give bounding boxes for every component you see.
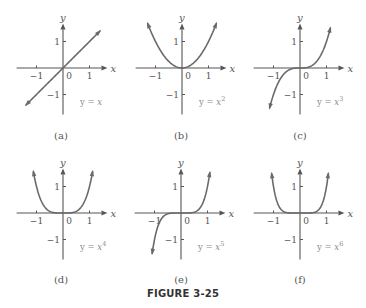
y-axis-label: y [296, 157, 303, 168]
tick-label: 0 [184, 216, 190, 226]
equation-label: y = x4 [79, 240, 106, 252]
tick-label: 1 [54, 182, 60, 192]
y-axis-arrow-icon [180, 24, 185, 30]
tick-label: 1 [291, 182, 297, 192]
power-function-plots: xy−1011−1y = xxy−1011−1y = x2xy−1011−1y … [0, 0, 366, 308]
y-axis-label: y [59, 12, 66, 23]
tick-label: 1 [205, 216, 211, 226]
tick-label: −1 [284, 235, 297, 245]
tick-label: −1 [267, 216, 280, 226]
curve-arrow-icon [90, 170, 94, 177]
y-axis-label: y [178, 12, 185, 23]
caption-f: (f) [294, 274, 306, 285]
tick-label: −1 [47, 90, 60, 100]
curve-arrow-icon [269, 103, 273, 110]
tick-label: −1 [166, 90, 179, 100]
x-axis-label: x [229, 63, 235, 74]
curve-arrow-icon [151, 249, 155, 256]
tick-label: 1 [206, 71, 212, 81]
tick-label: 0 [66, 71, 72, 81]
tick-label: −1 [30, 71, 43, 81]
x-axis-label: x [228, 208, 234, 219]
y-axis-label: y [177, 157, 184, 168]
curve-arrow-icon [147, 22, 151, 29]
equation-label: y = x [79, 97, 102, 107]
tick-label: −1 [165, 235, 178, 245]
tick-label: −1 [47, 235, 60, 245]
tick-label: 1 [87, 71, 93, 81]
equation-label: y = x2 [198, 95, 225, 107]
x-axis-label: x [347, 208, 353, 219]
figure-title: FIGURE 3-25 [147, 288, 219, 299]
x-axis-arrow-icon [220, 66, 226, 71]
tick-label: −1 [267, 71, 280, 81]
panel-f: xy−1011−1y = x6 [254, 157, 354, 260]
curve-arrow-icon [326, 172, 330, 179]
x-axis-arrow-icon [101, 211, 107, 216]
tick-label: −1 [149, 71, 162, 81]
x-axis-arrow-icon [219, 211, 225, 216]
tick-label: 1 [172, 182, 178, 192]
equation-label: y = x5 [197, 240, 224, 252]
y-axis-label: y [296, 12, 303, 23]
y-axis-label: y [59, 157, 66, 168]
curve-arrow-icon [213, 22, 217, 29]
equation-label: y = x3 [316, 95, 343, 107]
panel-a: xy−1011−1y = x [17, 12, 117, 115]
figure-3-25: xy−1011−1y = xxy−1011−1y = x2xy−1011−1y … [0, 0, 366, 308]
tick-label: 0 [303, 71, 309, 81]
x-axis-arrow-icon [338, 66, 344, 71]
curve-arrow-icon [207, 171, 211, 178]
panel-e: xy−1011−1y = x5 [135, 157, 235, 260]
y-axis-arrow-icon [179, 169, 184, 175]
x-axis-label: x [110, 208, 116, 219]
tick-label: 1 [87, 216, 93, 226]
panel-c: xy−1011−1y = x3 [254, 12, 354, 115]
panel-b: xy−1011−1y = x2 [136, 12, 236, 115]
equation-label: y = x6 [316, 240, 343, 252]
caption-a: (a) [54, 130, 68, 141]
tick-label: −1 [284, 90, 297, 100]
curve-arrow-icon [270, 172, 274, 179]
caption-b: (b) [174, 130, 188, 141]
tick-label: 0 [185, 71, 191, 81]
tick-label: 1 [173, 37, 179, 47]
x-axis-label: x [110, 63, 116, 74]
caption-e: (e) [174, 274, 188, 285]
tick-label: 0 [303, 216, 309, 226]
x-axis-arrow-icon [338, 211, 344, 216]
caption-c: (c) [293, 130, 306, 141]
panel-d: xy−1011−1y = x4 [17, 157, 117, 260]
curve-arrow-icon [327, 26, 331, 33]
y-axis-arrow-icon [61, 169, 66, 175]
tick-label: 1 [54, 37, 60, 47]
x-axis-arrow-icon [101, 66, 107, 71]
tick-label: −1 [30, 216, 43, 226]
caption-d: (d) [54, 274, 68, 285]
y-axis-arrow-icon [298, 24, 303, 30]
y-axis-arrow-icon [61, 24, 66, 30]
tick-label: 1 [324, 216, 330, 226]
x-axis-label: x [347, 63, 353, 74]
curve-arrow-icon [32, 170, 36, 177]
tick-label: 0 [66, 216, 72, 226]
tick-label: 1 [291, 37, 297, 47]
tick-label: 1 [324, 71, 330, 81]
y-axis-arrow-icon [298, 169, 303, 175]
